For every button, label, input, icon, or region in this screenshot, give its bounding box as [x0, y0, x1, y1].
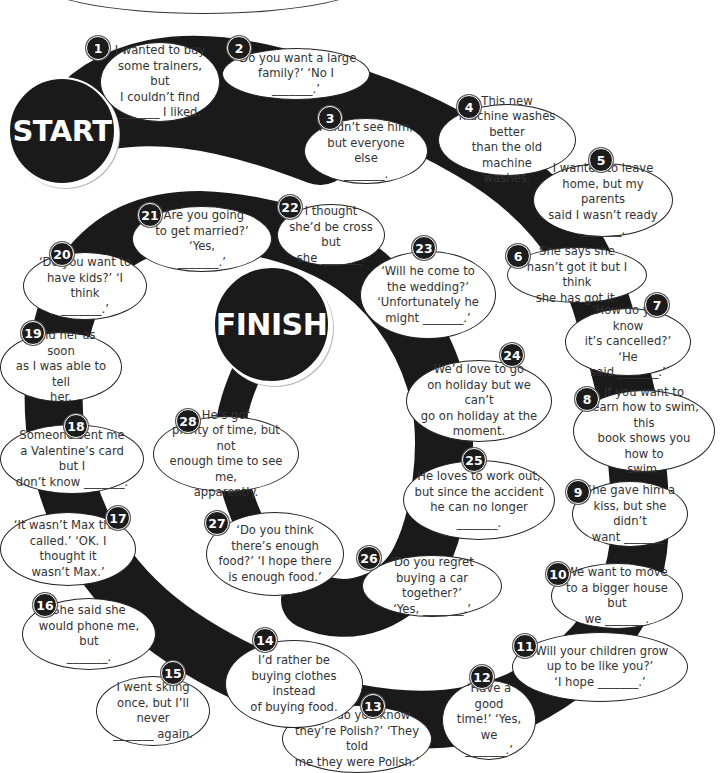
square-28-number-badge: 28: [176, 409, 200, 433]
square-12-bubble: ‘Have a good time!’ ‘Yes, we _______.’: [442, 680, 536, 760]
square-1-bubble: I wanted to buy some trainers, but I cou…: [100, 42, 220, 122]
square-9-number-badge: 9: [566, 480, 590, 504]
square-6-number-badge: 6: [506, 244, 530, 268]
square-11-number-badge: 11: [513, 634, 537, 658]
square-24-number-badge: 24: [500, 343, 524, 367]
square-27-number-badge: 27: [205, 511, 229, 535]
square-1-text: I wanted to buy some trainers, but I cou…: [111, 43, 209, 121]
square-25-number-badge: 25: [462, 448, 486, 472]
start-circle: START: [8, 77, 116, 185]
square-7-bubble: ‘How do you know it’s cancelled?’ ‘He sa…: [565, 308, 691, 376]
square-14-bubble: I’d rather be buying clothes instead of …: [225, 640, 363, 728]
square-28-bubble: He’s got plenty of time, but not enough …: [153, 416, 299, 492]
square-14-number-badge: 14: [253, 628, 277, 652]
square-11-bubble: ‘Will your children grow up to be like y…: [512, 632, 688, 702]
square-23-number-badge: 23: [412, 236, 436, 260]
square-12-number-badge: 12: [470, 665, 494, 689]
square-15-number-badge: 15: [161, 661, 185, 685]
square-25-bubble: He loves to work out, but since the acci…: [403, 460, 555, 540]
square-22-number-badge: 22: [278, 195, 302, 219]
square-23-bubble: ‘Will he come to the wedding?’ ‘Unfortun…: [360, 251, 496, 339]
square-2-number-badge: 2: [227, 36, 251, 60]
square-24-bubble: We’d love to go on holiday but we can’t …: [406, 360, 552, 442]
square-20-number-badge: 20: [50, 242, 74, 266]
square-18-number-badge: 18: [64, 414, 88, 438]
square-16-number-badge: 16: [33, 593, 57, 617]
square-21-number-badge: 21: [138, 203, 162, 227]
square-4-number-badge: 4: [457, 95, 481, 119]
square-7-number-badge: 7: [645, 293, 669, 317]
square-8-number-badge: 8: [575, 387, 599, 411]
square-26-number-badge: 26: [357, 546, 381, 570]
square-19-bubble: I told her as soon as I was able to tell…: [0, 332, 122, 402]
square-3-number-badge: 3: [318, 106, 342, 130]
square-26-bubble: ‘Do you regret buying a car together?’ ‘…: [362, 555, 502, 617]
square-1-number-badge: 1: [86, 36, 110, 60]
square-17-number-badge: 17: [106, 506, 130, 530]
square-5-number-badge: 5: [589, 148, 613, 172]
square-13-number-badge: 13: [361, 694, 385, 718]
square-10-number-badge: 10: [546, 562, 570, 586]
finish-label: FINISH: [216, 307, 328, 342]
finish-circle: FINISH: [213, 266, 330, 383]
start-label: START: [12, 114, 111, 148]
square-10-bubble: We want to move to a bigger house but we…: [551, 563, 683, 629]
square-15-bubble: I went skiing once, but I’ll never _____…: [96, 676, 210, 746]
square-20-bubble: ‘Do you want to have kids?’ ‘I think ___…: [23, 252, 147, 320]
square-19-number-badge: 19: [21, 321, 45, 345]
square-5-bubble: I wanted to leave home, but my parents s…: [533, 163, 673, 237]
